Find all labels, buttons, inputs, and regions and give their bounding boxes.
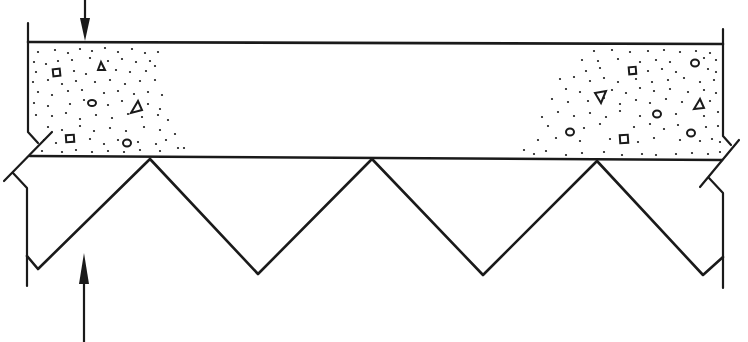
left-deck-edge (13, 173, 27, 256)
reaction-arrow-up-icon (79, 253, 89, 342)
triangle-aggregate-icon (595, 91, 606, 103)
triangle-aggregate-icon (98, 62, 105, 70)
steel-deck-profile (27, 159, 723, 275)
square-aggregate-icon (629, 67, 637, 75)
concrete-stipple-left (32, 47, 185, 153)
composite-slab-diagram (0, 0, 748, 342)
circle-aggregate-icon (566, 129, 574, 136)
slab-top-edge (28, 42, 723, 44)
square-aggregate-icon (620, 135, 629, 144)
concrete-slab (28, 23, 731, 160)
aggregate-left (53, 62, 142, 147)
square-aggregate-icon (53, 69, 61, 77)
circle-aggregate-icon (653, 111, 661, 118)
circle-aggregate-icon (687, 130, 695, 137)
load-arrow-down-icon (80, 0, 90, 41)
right-break-line (700, 140, 739, 187)
triangle-aggregate-icon (694, 99, 704, 109)
diagram-canvas (0, 0, 748, 342)
circle-aggregate-icon (691, 60, 699, 67)
aggregate-right (566, 60, 704, 144)
square-aggregate-icon (66, 135, 74, 143)
circle-aggregate-icon (88, 100, 96, 106)
triangle-aggregate-icon (131, 101, 142, 113)
right-deck-edge (709, 178, 723, 288)
slab-bottom-edge (30, 156, 722, 160)
circle-aggregate-icon (123, 140, 131, 147)
slab-right-end (723, 29, 731, 145)
